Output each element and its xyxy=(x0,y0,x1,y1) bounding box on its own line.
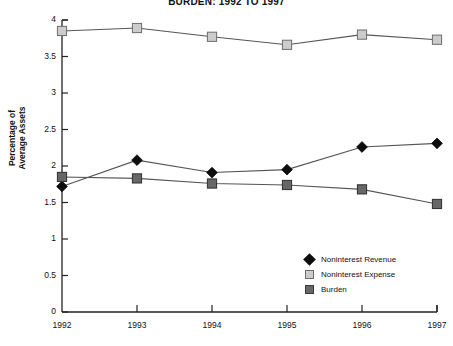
data-point xyxy=(282,40,291,49)
legend-label: Noninterest Expense xyxy=(321,270,395,279)
legend-label: Burden xyxy=(321,285,347,294)
series-line xyxy=(62,177,437,204)
x-tick-label: 1996 xyxy=(338,320,386,330)
chart-container: BURDEN: 1992 TO 1997 Percentage of Avera… xyxy=(0,0,453,346)
legend-item-noninterest-revenue: Noninterest Revenue xyxy=(305,252,396,267)
data-point xyxy=(207,179,216,188)
data-point xyxy=(57,26,66,35)
x-tick-label: 1997 xyxy=(413,320,453,330)
data-point xyxy=(57,172,66,181)
y-tick-label: 1 xyxy=(28,233,56,243)
y-tick-label: 0 xyxy=(28,306,56,316)
data-point xyxy=(132,23,141,32)
legend-label: Noninterest Revenue xyxy=(321,255,396,264)
legend-item-burden: Burden xyxy=(305,282,396,297)
y-tick-label: 0.5 xyxy=(28,270,56,280)
series-line xyxy=(62,28,437,45)
series-line xyxy=(62,143,437,186)
data-point xyxy=(282,180,291,189)
y-tick-label: 2 xyxy=(28,160,56,170)
dark-square-marker-icon xyxy=(305,285,314,294)
y-tick-label: 1.5 xyxy=(28,197,56,207)
data-point xyxy=(357,185,366,194)
x-tick-label: 1992 xyxy=(38,320,86,330)
data-point xyxy=(207,32,216,41)
data-point xyxy=(357,142,368,153)
x-tick-label: 1994 xyxy=(188,320,236,330)
data-point xyxy=(432,35,441,44)
light-square-marker-icon xyxy=(305,270,314,279)
data-point xyxy=(132,174,141,183)
data-point xyxy=(57,181,68,192)
x-tick-label: 1995 xyxy=(263,320,311,330)
y-tick-label: 3 xyxy=(28,87,56,97)
data-point xyxy=(282,164,293,175)
y-tick-label: 2.5 xyxy=(28,124,56,134)
chart-legend: Noninterest Revenue Noninterest Expense … xyxy=(305,252,396,297)
data-point xyxy=(132,155,143,166)
x-tick-label: 1993 xyxy=(113,320,161,330)
diamond-marker-icon xyxy=(305,255,314,264)
data-point xyxy=(432,138,443,149)
data-point xyxy=(357,30,366,39)
data-point xyxy=(432,199,441,208)
y-tick-label: 3.5 xyxy=(28,51,56,61)
legend-item-noninterest-expense: Noninterest Expense xyxy=(305,267,396,282)
y-tick-label: 4 xyxy=(28,14,56,24)
data-point xyxy=(207,167,218,178)
